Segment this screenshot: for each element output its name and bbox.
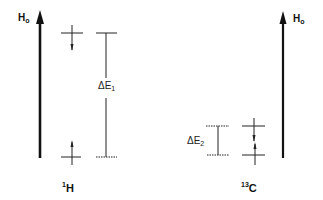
field-subscript: o xyxy=(300,18,304,25)
element-symbol: H xyxy=(66,182,74,194)
delta-e-symbol: ΔE xyxy=(98,80,111,91)
delta-e-subscript: 1 xyxy=(111,85,115,92)
element-symbol: C xyxy=(249,182,257,194)
mass-number: 13 xyxy=(241,181,249,188)
spin-down-arrow-icon xyxy=(71,44,74,51)
left-field-arrow xyxy=(36,10,44,158)
delta-e-subscript: 2 xyxy=(200,140,204,147)
delta-e1-bracket xyxy=(96,33,117,157)
delta-e1-label: ΔE1 xyxy=(98,80,115,92)
nucleus-label-1h: 1H xyxy=(62,181,74,194)
right-field-label: Ho xyxy=(293,13,305,25)
energy-level-diagram xyxy=(0,0,323,200)
delta-e-symbol: ΔE xyxy=(187,135,200,146)
spin-up-arrow-icon xyxy=(254,142,257,149)
c13-lower-level xyxy=(242,144,265,165)
nucleus-label-13c: 13C xyxy=(241,181,257,194)
left-field-label: Ho xyxy=(18,12,30,24)
right-field-arrow xyxy=(280,11,287,158)
delta-e2-label: ΔE2 xyxy=(187,135,204,147)
spin-down-arrow-icon xyxy=(253,135,256,142)
delta-e2-bracket xyxy=(206,126,229,155)
field-subscript: o xyxy=(25,17,29,24)
spin-up-arrow-icon xyxy=(71,140,74,147)
